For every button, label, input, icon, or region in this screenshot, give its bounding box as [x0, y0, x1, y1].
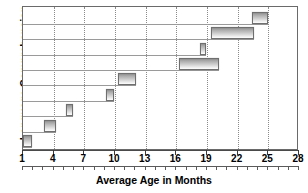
- x-minor-tick-9: [104, 166, 105, 170]
- bar-row-7: [200, 43, 206, 55]
- x-minor-tick-8: [94, 166, 95, 170]
- row-baseline: [23, 55, 206, 56]
- bar-row-3: [66, 104, 73, 116]
- row-baseline: [23, 132, 56, 133]
- x-minor-tick-28: [298, 166, 299, 170]
- x-minor-tick-15: [165, 166, 166, 170]
- bar-row-6: [179, 58, 219, 70]
- x-tick-label-19: 19: [195, 153, 217, 164]
- gridline-13: [146, 7, 147, 149]
- gridline-19: [207, 7, 208, 149]
- x-minor-tick-12: [134, 166, 135, 170]
- bar-row-4: [106, 89, 114, 101]
- row-baseline: [23, 85, 136, 86]
- x-minor-tick-16: [175, 166, 176, 170]
- x-minor-tick-22: [237, 166, 238, 170]
- x-axis-line: [22, 150, 298, 151]
- x-minor-tick-10: [114, 166, 115, 170]
- x-tick-label-1: 1: [11, 153, 33, 164]
- x-minor-tick-26: [278, 166, 279, 170]
- row-baseline: [23, 147, 32, 148]
- x-tick-label-22: 22: [226, 153, 248, 164]
- row-baseline: [23, 24, 268, 25]
- gridline-7: [84, 7, 85, 149]
- gridline-10: [115, 7, 116, 149]
- x-minor-tick-21: [226, 166, 227, 170]
- x-minor-tick-27: [288, 166, 289, 170]
- x-minor-tick-7: [83, 166, 84, 170]
- bar-row-2: [44, 120, 55, 132]
- row-baseline: [23, 116, 73, 117]
- x-minor-tick-5: [63, 166, 64, 170]
- x-minor-tick-3: [42, 166, 43, 170]
- x-minor-tick-25: [267, 166, 268, 170]
- x-minor-tick-4: [53, 166, 54, 170]
- gridline-16: [176, 7, 177, 149]
- x-axis-tick-labels: 14710131619222528: [0, 153, 308, 166]
- x-minor-tick-18: [196, 166, 197, 170]
- x-minor-tick-17: [186, 166, 187, 170]
- x-tick-label-10: 10: [103, 153, 125, 164]
- x-axis-title: Average Age in Months: [0, 174, 308, 186]
- x-minor-tick-13: [145, 166, 146, 170]
- row-baseline: [23, 39, 254, 40]
- bar-row-9: [252, 12, 268, 24]
- x-minor-tick-14: [155, 166, 156, 170]
- x-tick-label-13: 13: [134, 153, 156, 164]
- plot-area: [22, 6, 298, 150]
- language-comprehension-chart: Language Comprehension 14710131619222528…: [0, 0, 308, 193]
- x-minor-tick-11: [124, 166, 125, 170]
- row-baseline: [23, 101, 114, 102]
- x-tick-label-4: 4: [42, 153, 64, 164]
- x-minor-tick-19: [206, 166, 207, 170]
- x-minor-tick-24: [257, 166, 258, 170]
- x-minor-tick-23: [247, 166, 248, 170]
- bar-row-5: [118, 73, 136, 85]
- x-tick-label-7: 7: [72, 153, 94, 164]
- x-minor-tick-1: [22, 166, 23, 170]
- x-minor-tick-6: [73, 166, 74, 170]
- x-minor-tick-20: [216, 166, 217, 170]
- x-tick-label-28: 28: [287, 153, 308, 164]
- x-minor-tick-2: [32, 166, 33, 170]
- gridline-25: [268, 7, 269, 149]
- x-tick-label-25: 25: [256, 153, 278, 164]
- row-baseline: [23, 70, 219, 71]
- bar-row-8: [211, 27, 254, 39]
- x-tick-label-16: 16: [164, 153, 186, 164]
- bar-row-1: [23, 135, 32, 147]
